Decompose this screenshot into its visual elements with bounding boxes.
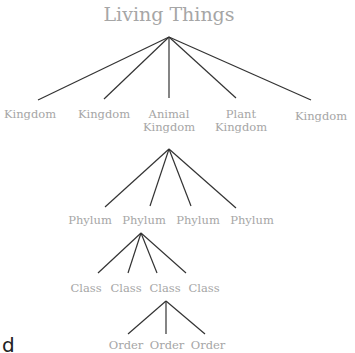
- node-plant-kingdom: Plant Kingdom: [215, 108, 267, 134]
- node-label: Kingdom: [4, 108, 56, 121]
- node-order-3: Order: [191, 339, 226, 352]
- node-order-2: Order: [150, 339, 185, 352]
- node-label-line2: Kingdom: [215, 121, 267, 134]
- node-phylum-1: Phylum: [68, 214, 112, 227]
- node-class-4: Class: [188, 282, 219, 295]
- node-class-1: Class: [70, 282, 101, 295]
- node-label-line2: Kingdom: [143, 121, 195, 134]
- cropped-text-fragment: d: [2, 333, 15, 353]
- node-class-2: Class: [110, 282, 141, 295]
- root-node-living-things: Living Things: [103, 3, 234, 25]
- node-phylum-3: Phylum: [176, 214, 220, 227]
- tree-connectors: [0, 0, 355, 353]
- node-animal-kingdom: Animal Kingdom: [143, 108, 195, 134]
- node-label: Kingdom: [78, 108, 130, 121]
- node-label: Kingdom: [295, 110, 347, 123]
- node-class-3: Class: [149, 282, 180, 295]
- node-kingdom-5: Kingdom: [295, 110, 347, 123]
- node-kingdom-2: Kingdom: [78, 108, 130, 121]
- node-phylum-4: Phylum: [230, 214, 274, 227]
- node-order-1: Order: [109, 339, 144, 352]
- node-kingdom-1: Kingdom: [4, 108, 56, 121]
- node-phylum-2: Phylum: [122, 214, 166, 227]
